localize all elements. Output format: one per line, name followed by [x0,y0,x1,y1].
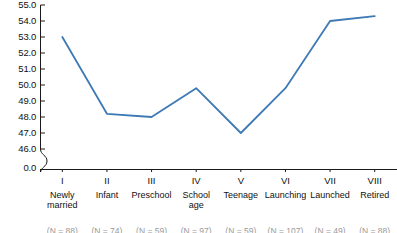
y-tick-label: 53.0 [2,32,36,42]
stage-name-line: Teenage [219,190,264,201]
stage-numeral: V [219,176,264,187]
stage-name-line: Infant [85,190,130,201]
y-tick-label: 50.0 [2,80,36,90]
y-tick-label: 51.0 [2,64,36,74]
y-tick-label: 48.0 [2,112,36,122]
x-axis-category: VIIIRetired [352,176,397,216]
sample-size-label: (N = 59) [219,226,264,233]
stage-numeral: VI [263,176,308,187]
x-axis-category: IIInfant [85,176,130,216]
sample-size-label: (N = 97) [174,226,219,233]
x-axis-category: IIIPreschool [129,176,174,216]
y-tick-label: 55.0 [2,0,36,10]
sample-size-label: (N = 88) [40,226,85,233]
stage-numeral: II [85,176,130,187]
stage-name-line: married [40,200,85,211]
y-axis-origin-label: 0.0 [2,163,36,173]
sample-size-label: (N = 74) [85,226,130,233]
stage-name-line: age [174,200,219,211]
data-series-line [40,0,397,172]
sample-size-label: (N = 59) [129,226,174,233]
sample-size-label: (N = 49) [308,226,353,233]
stage-numeral: III [129,176,174,187]
x-axis-category: VTeenage [219,176,264,216]
stage-numeral: I [40,176,85,187]
y-tick-label: 47.0 [2,128,36,138]
stage-name-line: Newly [40,190,85,201]
sample-size-label: (N = 88) [352,226,397,233]
y-tick-label: 54.0 [2,16,36,26]
stage-numeral: VII [308,176,353,187]
y-tick-label: 49.0 [2,96,36,106]
sample-size-row: (N = 88)(N = 74)(N = 59)(N = 97)(N = 59)… [40,226,397,233]
stage-name-line: Preschool [129,190,174,201]
stage-numeral: VIII [352,176,397,187]
x-axis-category: VILaunching [263,176,308,216]
stage-numeral: IV [174,176,219,187]
x-axis-category: VIILaunched [308,176,353,216]
y-tick-label: 52.0 [2,48,36,58]
stage-name-line: Retired [352,190,397,201]
stage-name-line: Launched [308,190,353,201]
stage-name-line: School [174,190,219,201]
x-axis-category: INewlymarried [40,176,85,216]
y-tick-label: 46.0 [2,144,36,154]
x-axis-category-labels: INewlymarriedIIInfantIIIPreschoolIVSchoo… [40,176,397,216]
plot-area [40,0,397,172]
stage-name-line: Launching [263,190,308,201]
line-chart: 55.054.053.052.051.050.049.048.047.046.0… [0,0,397,233]
sample-size-label: (N = 107) [263,226,308,233]
x-axis-category: IVSchoolage [174,176,219,216]
y-axis-tick-labels: 55.054.053.052.051.050.049.048.047.046.0… [0,0,36,200]
